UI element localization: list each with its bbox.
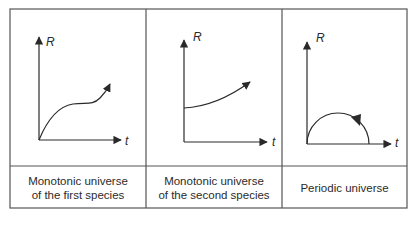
caption-line: Monotonic universe (158, 174, 269, 188)
curve (39, 84, 110, 140)
y-axis-label: R (193, 30, 202, 44)
caption-monotonic-first: Monotonic universe of the first species (10, 167, 146, 208)
panel-periodic (307, 42, 391, 144)
caption-line: of the second species (158, 188, 269, 202)
panel-monotonic-second (184, 40, 267, 142)
caption-line: Periodic universe (300, 181, 388, 195)
y-axis-label: R (316, 31, 325, 45)
caption-periodic: Periodic universe (282, 167, 407, 208)
caption-line: of the first species (28, 188, 128, 202)
x-axis-label: t (125, 134, 129, 148)
caption-line: Monotonic universe (28, 174, 128, 188)
curve (184, 82, 250, 108)
y-axis-label: R (46, 35, 55, 49)
panel-monotonic-first (39, 37, 121, 140)
x-axis-label: t (272, 135, 276, 149)
x-axis-label: t (395, 136, 399, 150)
arc-arrowhead-icon (351, 114, 361, 126)
caption-monotonic-second: Monotonic universe of the second species (146, 167, 282, 208)
